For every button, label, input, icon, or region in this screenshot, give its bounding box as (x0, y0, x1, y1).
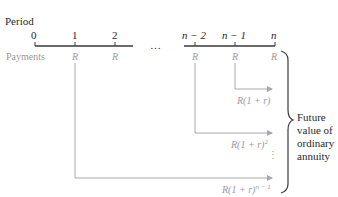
period-label-n-minus-2: n − 2 (182, 30, 206, 41)
period-label-1: 1 (72, 30, 78, 41)
payment-n-minus-1: R (232, 52, 238, 62)
period-title: Period (5, 16, 34, 27)
payment-n: R (271, 52, 277, 62)
period-label-2: 2 (112, 30, 118, 41)
annuity-timeline-diagram: Period 0 1 2 … n − 2 n − 1 n Payments R … (0, 0, 338, 197)
period-label-n-minus-1: n − 1 (222, 30, 246, 41)
vertical-ellipsis: ⋮ (268, 150, 278, 160)
future-value-1: R(1 + r) (237, 96, 270, 106)
period-label-0: 0 (31, 30, 37, 41)
future-value-2: R(1 + r)2 (231, 140, 268, 150)
period-ellipsis: … (150, 40, 161, 51)
future-value-n-minus-1: R(1 + r)n − 1 (222, 185, 271, 195)
payments-label: Payments (6, 52, 45, 62)
brace (281, 51, 293, 193)
payment-2: R (112, 52, 118, 62)
payment-n-minus-2: R (192, 52, 198, 62)
period-label-n: n (271, 30, 277, 41)
compounding-arrows (75, 63, 272, 178)
brace-label: Future value of ordinary annuity (297, 111, 334, 163)
diagram-lines (0, 0, 338, 197)
payment-1: R (72, 52, 78, 62)
